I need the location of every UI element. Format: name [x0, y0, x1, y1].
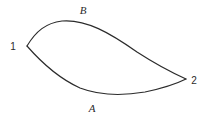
curve-path-b: [27, 21, 186, 79]
node-label-2: 2: [191, 75, 197, 86]
curve-path-a: [27, 46, 186, 95]
path-label-a: A: [88, 102, 96, 114]
node-label-1: 1: [10, 41, 16, 52]
diagram-canvas: 1 2 B A: [0, 0, 210, 117]
path-label-b: B: [80, 4, 87, 16]
path-diagram-figure: 1 2 B A: [0, 0, 210, 117]
